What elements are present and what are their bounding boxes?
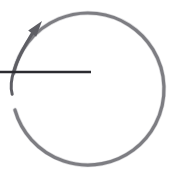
rotation-diagram (0, 0, 175, 177)
rotation-diagram-canvas (0, 0, 175, 177)
diagram-background (0, 0, 175, 177)
